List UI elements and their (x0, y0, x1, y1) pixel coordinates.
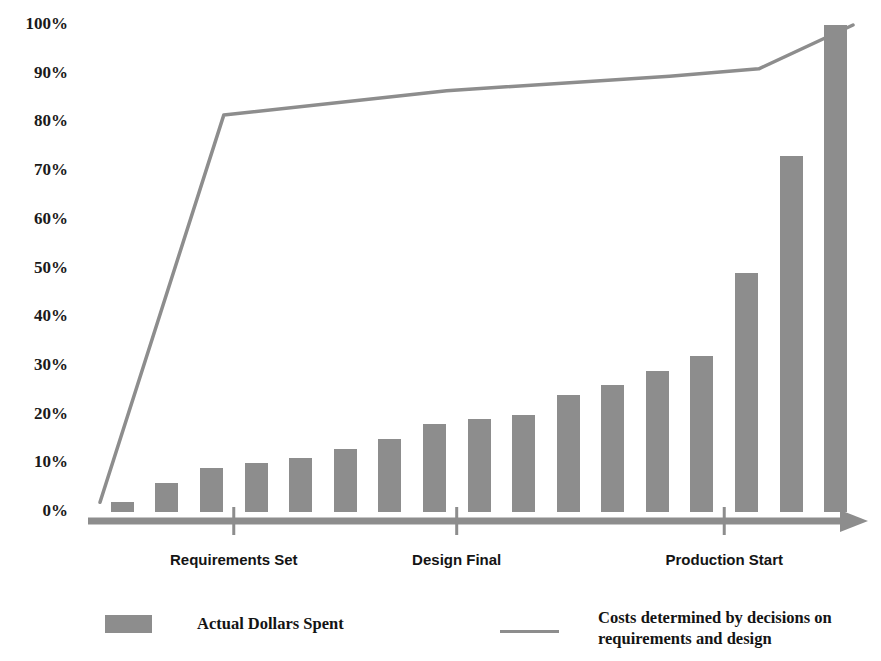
bar (289, 458, 312, 512)
x-axis-label-design-final: Design Final (347, 551, 567, 568)
chart-page: 0%10%20%30%40%50%60%70%80%90%100% Requir… (0, 0, 881, 661)
legend-swatch-bar-icon (105, 615, 152, 633)
x-axis-label-requirements-set: Requirements Set (124, 551, 344, 568)
plot-area (0, 0, 881, 545)
bar (200, 468, 223, 512)
legend-label-line: Costs determined by decisions on require… (598, 607, 832, 649)
bar (245, 463, 268, 512)
bar (334, 449, 357, 512)
bar (557, 395, 580, 512)
bar (155, 483, 178, 512)
x-axis-arrow-icon (840, 510, 868, 532)
legend-swatch-line-icon (500, 630, 559, 633)
bar (378, 439, 401, 512)
x-axis-label-production-start: Production Start (614, 551, 834, 568)
bar (512, 415, 535, 512)
legend-label-bars: Actual Dollars Spent (197, 613, 344, 634)
bar (690, 356, 713, 512)
bar (780, 156, 803, 512)
bar (423, 424, 446, 512)
bar (824, 25, 847, 512)
bar (601, 385, 624, 512)
bar (468, 419, 491, 512)
bar (646, 371, 669, 512)
bar (111, 502, 134, 512)
bar (735, 273, 758, 512)
